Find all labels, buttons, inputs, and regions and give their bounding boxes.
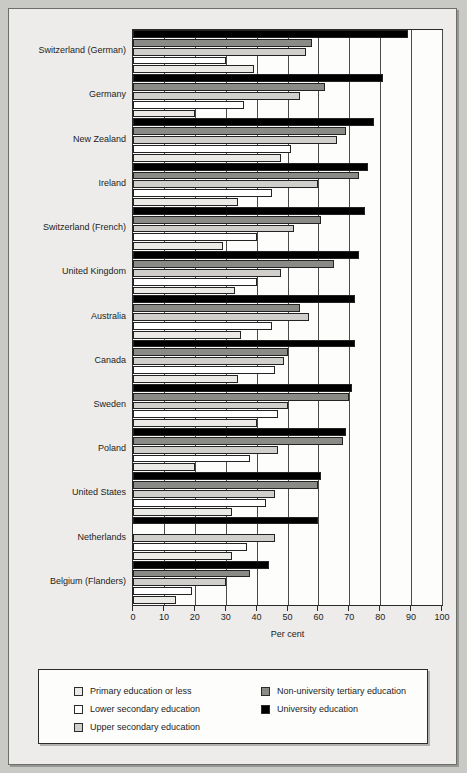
bar-primary	[133, 508, 232, 516]
bar-non_university_tertiary	[133, 172, 359, 180]
y-axis-label: Switzerland (French)	[9, 222, 126, 232]
legend-column-right: Non-university tertiary educationUnivers…	[261, 682, 406, 718]
bar-university	[133, 472, 321, 480]
bar-lower_secondary	[133, 189, 272, 197]
x-tick-100	[441, 606, 442, 611]
y-axis-label: Ireland	[9, 178, 126, 188]
y-axis-label: Sweden	[9, 399, 126, 409]
bar-lower_secondary	[133, 145, 291, 153]
x-axis-tick-labels: 0102030405060708090100	[9, 612, 458, 626]
bar-lower_secondary	[133, 366, 275, 374]
y-axis-label: Australia	[9, 311, 126, 321]
bar-primary	[133, 596, 176, 604]
bar-lower_secondary	[133, 455, 250, 463]
bar-primary	[133, 242, 223, 250]
bar-university	[133, 251, 359, 259]
legend-swatch-icon	[261, 687, 270, 696]
bar-university	[133, 118, 374, 126]
legend-swatch-icon	[74, 687, 83, 696]
x-tick-10	[163, 606, 164, 611]
y-axis-label: Belgium (Flanders)	[9, 576, 126, 586]
bar-group	[133, 251, 442, 295]
legend-column-left: Primary education or lessLower secondary…	[74, 682, 200, 736]
y-axis-label: United Kingdom	[9, 266, 126, 276]
legend-swatch-icon	[74, 723, 83, 732]
bar-lower_secondary	[133, 278, 257, 286]
bar-upper_secondary	[133, 534, 275, 542]
x-tick-70	[348, 606, 349, 611]
bar-university	[133, 74, 383, 82]
y-axis-labels: Switzerland (German)GermanyNew ZealandIr…	[9, 29, 126, 606]
legend-swatch-icon	[74, 705, 83, 714]
x-tick-50	[287, 606, 288, 611]
bar-group	[133, 340, 442, 384]
legend-label: Primary education or less	[90, 686, 192, 696]
bar-university	[133, 384, 352, 392]
bar-university	[133, 517, 318, 525]
bar-non_university_tertiary	[133, 481, 318, 489]
plot-area	[132, 29, 443, 606]
bar-upper_secondary	[133, 446, 278, 454]
x-axis-title: Per cent	[132, 629, 443, 639]
bar-upper_secondary	[133, 490, 275, 498]
bar-upper_secondary	[133, 578, 226, 586]
y-axis-label: Switzerland (German)	[9, 45, 126, 55]
bar-university	[133, 428, 346, 436]
bar-upper_secondary	[133, 402, 288, 410]
plot-area-wrapper: Switzerland (German)GermanyNew ZealandIr…	[9, 9, 458, 649]
bar-group	[133, 384, 442, 428]
x-tick-20	[194, 606, 195, 611]
bar-upper_secondary	[133, 269, 281, 277]
chart-legend: Primary education or lessLower secondary…	[38, 669, 428, 744]
bar-primary	[133, 331, 241, 339]
x-tick-label-100: 100	[422, 612, 462, 622]
x-tick-0	[132, 606, 133, 611]
bar-non_university_tertiary	[133, 260, 334, 268]
bar-primary	[133, 287, 235, 295]
bar-non_university_tertiary	[133, 570, 250, 578]
x-tick-80	[379, 606, 380, 611]
legend-swatch-icon	[261, 705, 270, 714]
bar-university	[133, 207, 365, 215]
bar-upper_secondary	[133, 225, 294, 233]
bar-group	[133, 74, 442, 118]
legend-item: Non-university tertiary education	[261, 682, 406, 700]
bar-upper_secondary	[133, 180, 318, 188]
bar-non_university_tertiary	[133, 39, 312, 47]
bar-lower_secondary	[133, 543, 247, 551]
bar-group	[133, 561, 442, 605]
bar-group	[133, 428, 442, 472]
x-tick-40	[256, 606, 257, 611]
bar-lower_secondary	[133, 322, 272, 330]
legend-item: Upper secondary education	[74, 718, 200, 736]
bar-lower_secondary	[133, 410, 278, 418]
y-axis-label: Netherlands	[9, 532, 126, 542]
bar-group	[133, 163, 442, 207]
bar-lower_secondary	[133, 101, 244, 109]
bar-primary	[133, 419, 257, 427]
legend-label: Non-university tertiary education	[277, 686, 406, 696]
bar-university	[133, 340, 355, 348]
gridline-100	[442, 30, 443, 605]
bar-non_university_tertiary	[133, 437, 343, 445]
bar-primary	[133, 463, 195, 471]
bar-group	[133, 30, 442, 74]
bar-non_university_tertiary	[133, 83, 325, 91]
legend-label: University education	[277, 704, 358, 714]
y-axis-label: Canada	[9, 355, 126, 365]
bar-primary	[133, 65, 254, 73]
y-axis-label: Germany	[9, 89, 126, 99]
bar-group	[133, 207, 442, 251]
legend-label: Lower secondary education	[90, 704, 200, 714]
x-tick-60	[317, 606, 318, 611]
bar-primary	[133, 552, 232, 560]
bar-lower_secondary	[133, 233, 257, 241]
bar-primary	[133, 198, 238, 206]
bar-group	[133, 517, 442, 561]
y-axis-label: United States	[9, 487, 126, 497]
bar-non_university_tertiary	[133, 393, 349, 401]
bar-upper_secondary	[133, 357, 284, 365]
bar-university	[133, 30, 408, 38]
bar-groups	[133, 30, 442, 605]
y-axis-label: Poland	[9, 443, 126, 453]
